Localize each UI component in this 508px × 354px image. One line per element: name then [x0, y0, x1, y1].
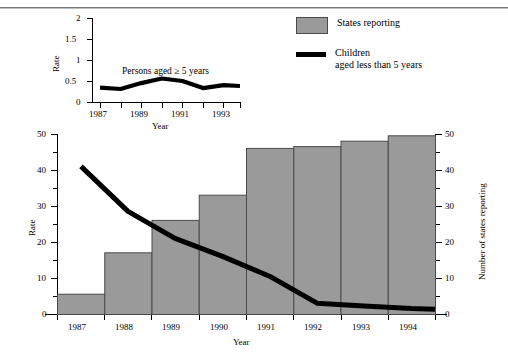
inset-chart-panel: 0 0.5 1 1.5 2 1987 1989 1991 1993 Rate Y…: [0, 10, 258, 122]
main-right-ytick-40: [436, 170, 442, 171]
main-chart-panel: 0 10 20 30 40 50 0 10 20 30 40 50 1987: [0, 128, 508, 354]
header-rule-light: [0, 8, 508, 9]
main-xlabel-1991: 1991: [257, 323, 275, 332]
main-right-ytick-50: [436, 134, 442, 135]
inset-xlabel-1993: 1993: [212, 110, 230, 119]
main-xlabel-1992: 1992: [304, 323, 322, 332]
main-right-ytick-5: [436, 296, 440, 297]
main-left-axis-title: Rate: [28, 220, 37, 237]
main-right-ylabel-40: 40: [445, 166, 454, 175]
legend-swatch-black-line-icon: [296, 52, 326, 57]
main-xlabel-1994: 1994: [399, 323, 417, 332]
main-xtick-e5: [293, 315, 294, 320]
main-right-ytick-15: [436, 260, 440, 261]
inset-series-line: [92, 18, 240, 104]
main-right-ylabel-20: 20: [445, 238, 454, 247]
main-left-ylabel-30: 30: [37, 202, 46, 211]
inset-ylabel-1: 1: [76, 56, 81, 65]
inset-ylabel-0: 0: [76, 98, 81, 107]
main-xtick-e2: [151, 315, 152, 320]
inset-ylabel-1_5: 1.5: [65, 35, 76, 44]
main-xtick-e8: [435, 315, 436, 320]
main-right-ytick-10: [436, 278, 442, 279]
main-right-ytick-0: [436, 314, 442, 315]
main-right-ytick-20: [436, 242, 442, 243]
inset-ylabel-2: 2: [76, 14, 81, 23]
inset-xlabel-1987: 1987: [89, 110, 107, 119]
legend-label-states-reporting: States reporting: [337, 17, 400, 29]
main-right-ylabel-50: 50: [445, 130, 454, 139]
main-right-ylabel-30: 30: [445, 202, 454, 211]
main-right-ylabel-0: 0: [445, 310, 450, 319]
main-xtick-e0: [57, 315, 58, 320]
main-xtick-e4: [246, 315, 247, 320]
main-right-ytick-30: [436, 206, 442, 207]
main-xlabel-1990: 1990: [210, 323, 228, 332]
main-xtick-e3: [199, 315, 200, 320]
main-right-ytick-45: [436, 152, 440, 153]
main-xlabel-1987: 1987: [68, 323, 86, 332]
inset-y-axis-title: Rate: [52, 56, 61, 73]
main-xtick-e7: [388, 315, 389, 320]
main-xlabel-1988: 1988: [115, 323, 133, 332]
legend-item-states-reporting: States reporting: [296, 17, 400, 34]
main-left-ylabel-50: 50: [37, 130, 46, 139]
main-xlabel-1989: 1989: [162, 323, 180, 332]
inset-xlabel-1989: 1989: [130, 110, 148, 119]
main-x-axis-title: Year: [233, 338, 250, 347]
main-right-ylabel-10: 10: [445, 274, 454, 283]
main-left-ylabel-40: 40: [37, 166, 46, 175]
inset-xlabel-1991: 1991: [171, 110, 189, 119]
main-xtick-e1: [104, 315, 105, 320]
inset-xtick-1994: [240, 103, 241, 108]
main-left-ylabel-20: 20: [37, 238, 46, 247]
main-xlabel-1993: 1993: [352, 323, 370, 332]
main-right-ytick-35: [436, 188, 440, 189]
inset-ylabel-0_5: 0.5: [65, 77, 76, 86]
main-right-axis-title: Number of states reporting: [478, 183, 487, 280]
legend-item-children-under-5: Children aged less than 5 years: [296, 47, 422, 70]
chart-legend: States reporting Children aged less than…: [296, 17, 501, 79]
legend-swatch-gray-box-icon: [296, 17, 328, 34]
main-xtick-e6: [341, 315, 342, 320]
figure-root: States reporting Children aged less than…: [0, 0, 508, 354]
legend-label-children-under-5: Children aged less than 5 years: [335, 47, 422, 70]
line-children-under-5: [57, 134, 436, 315]
main-left-ylabel-0: 0: [42, 310, 47, 319]
main-left-ylabel-10: 10: [37, 274, 46, 283]
main-right-ytick-25: [436, 224, 440, 225]
